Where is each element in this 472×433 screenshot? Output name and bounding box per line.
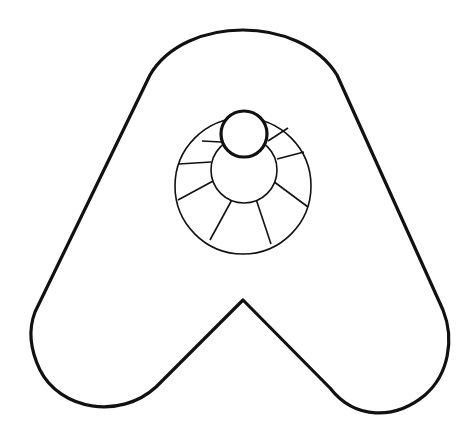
top-knob-circle [221, 111, 267, 157]
drawing-canvas [0, 0, 472, 433]
letter-a-drawing [0, 0, 472, 433]
